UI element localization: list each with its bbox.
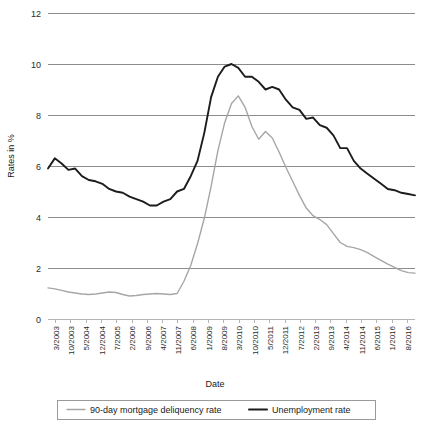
x-axis-tick-label: 2/2013	[312, 325, 321, 350]
x-axis-tick-label: 2/2006	[128, 325, 137, 350]
x-axis-tick-label: 6/2015	[373, 325, 382, 350]
y-axis-tick-label: 6	[36, 162, 41, 172]
y-axis-tick-label: 2	[36, 264, 41, 274]
x-axis-tickmarks	[56, 319, 408, 323]
x-axis-tick-label: 8/2009	[220, 325, 229, 350]
x-axis-tick-label: 1/2009	[205, 325, 214, 350]
x-axis-tick-label: 5/2004	[82, 325, 91, 350]
y-axis-tick-label: 8	[36, 111, 41, 121]
legend-label-mortgage-delinquency-rate: 90-day mortgage deliquency rate	[90, 405, 222, 415]
y-axis-tick-label: 10	[31, 60, 41, 70]
x-axis-tick-label: 10/2010	[251, 325, 260, 354]
x-axis-tick-label: 7/2012	[297, 325, 306, 350]
x-axis-tick-label: 7/2005	[113, 325, 122, 350]
x-axis-tick-labels: 3/200310/20035/200412/20047/20052/20069/…	[52, 325, 413, 354]
y-axis-tick-label: 0	[36, 315, 41, 325]
x-axis-tick-label: 5/2011	[266, 325, 275, 349]
data-series	[48, 64, 415, 296]
x-axis-tick-label: 1/2016	[388, 325, 397, 350]
y-axis-tick-labels: 024681012	[31, 9, 41, 325]
x-axis-tick-label: 10/2003	[67, 325, 76, 354]
series-line-unemployment-rate	[48, 64, 415, 206]
chart-legend: 90-day mortgage deliquency rateUnemploym…	[57, 400, 375, 419]
y-axis-tick-label: 4	[36, 213, 41, 223]
x-axis-tick-label: 8/2016	[404, 325, 413, 350]
x-axis-tick-label: 3/2010	[235, 325, 244, 350]
x-axis-tick-label: 12/2004	[98, 325, 107, 354]
x-axis-tick-label: 11/2007	[174, 325, 183, 354]
x-axis-tick-label: 4/2007	[159, 325, 168, 350]
x-axis-tick-label: 3/2003	[52, 325, 61, 350]
chart-container: 024681012 3/200310/20035/200412/20047/20…	[0, 0, 430, 427]
x-axis-tick-label: 9/2006	[144, 325, 153, 350]
x-axis-tick-label: 4/2014	[342, 325, 351, 350]
y-axis-title: Rates in %	[6, 134, 16, 178]
series-line-mortgage-delinquency-rate	[48, 96, 415, 296]
x-axis-tick-label: 12/2011	[281, 325, 290, 354]
line-chart: 024681012 3/200310/20035/200412/20047/20…	[0, 0, 430, 427]
legend-label-unemployment-rate: Unemployment rate	[272, 405, 351, 415]
gridlines	[48, 13, 415, 319]
x-axis-title: Date	[205, 379, 224, 389]
x-axis-tick-label: 11/2014	[358, 325, 367, 354]
x-axis-tick-label: 9/2013	[327, 325, 336, 350]
y-axis-tick-label: 12	[31, 9, 41, 19]
x-axis-tick-label: 6/2008	[189, 325, 198, 350]
